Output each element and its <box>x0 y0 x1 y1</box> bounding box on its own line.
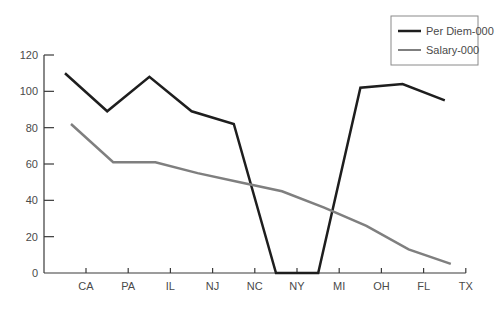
x-tick-label: FL <box>417 280 430 292</box>
y-tick-label: 0 <box>32 267 38 279</box>
x-tick-label: OH <box>373 280 390 292</box>
x-tick-label: PA <box>121 280 136 292</box>
series-line-0 <box>65 73 445 273</box>
x-tick-label: IL <box>166 280 175 292</box>
chart-canvas: 020406080100120 CAPAILNJNCNYMIOHFLTX Per… <box>0 0 495 312</box>
x-tick-label: MI <box>333 280 345 292</box>
legend: Per Diem-000 Salary-000 <box>391 16 494 65</box>
legend-box <box>391 16 478 65</box>
x-tick-label: NC <box>247 280 263 292</box>
x-tick-label: TX <box>459 280 474 292</box>
legend-label-salary: Salary-000 <box>426 44 479 56</box>
x-tick-label: NJ <box>206 280 219 292</box>
line-chart: 020406080100120 CAPAILNJNCNYMIOHFLTX Per… <box>0 0 495 312</box>
x-axis: CAPAILNJNCNYMIOHFLTX <box>44 268 473 292</box>
series-layer <box>65 73 451 273</box>
y-tick-label: 20 <box>26 231 38 243</box>
y-tick-label: 40 <box>26 194 38 206</box>
y-axis: 020406080100120 <box>20 49 54 279</box>
legend-label-per-diem: Per Diem-000 <box>426 25 494 37</box>
y-tick-label: 100 <box>20 85 38 97</box>
x-tick-label: NY <box>289 280 305 292</box>
series-line-1 <box>71 124 451 264</box>
x-tick-label: CA <box>78 280 94 292</box>
y-tick-label: 120 <box>20 49 38 61</box>
y-tick-label: 60 <box>26 158 38 170</box>
y-tick-label: 80 <box>26 122 38 134</box>
